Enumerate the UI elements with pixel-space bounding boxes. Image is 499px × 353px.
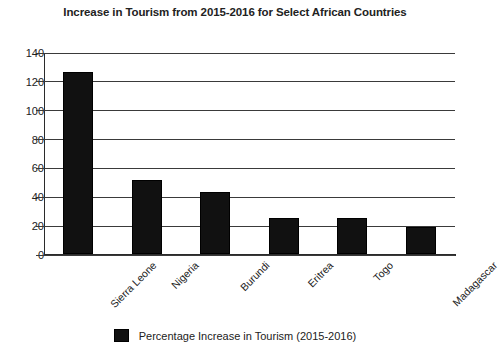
legend-swatch-icon <box>114 329 129 342</box>
bar <box>269 218 299 254</box>
y-tick-mark <box>36 226 44 227</box>
x-tick-label: Togo <box>371 259 396 284</box>
bar <box>406 227 436 254</box>
legend-label: Percentage Increase in Tourism (2015-201… <box>139 330 356 342</box>
gridline <box>44 139 455 140</box>
x-tick-label: Madagascar <box>450 259 499 308</box>
x-tick-label: Sierra Leone <box>108 259 159 310</box>
gridline <box>44 226 455 227</box>
bar <box>132 180 162 254</box>
gridline <box>44 53 455 54</box>
gridline <box>44 81 455 82</box>
gridline <box>44 197 455 198</box>
y-tick-mark <box>36 197 44 198</box>
bar <box>200 192 230 254</box>
gridline <box>44 110 455 111</box>
y-tick-mark <box>36 81 44 82</box>
chart-legend: Percentage Increase in Tourism (2015-201… <box>0 329 470 342</box>
y-tick-mark <box>36 168 44 169</box>
plot-area <box>44 53 455 255</box>
x-tick-label: Burundi <box>238 259 272 293</box>
bar <box>63 72 93 254</box>
bar <box>337 218 367 254</box>
y-tick-mark <box>36 139 44 140</box>
y-axis: 020406080100120140 <box>0 53 44 255</box>
x-axis-tick-labels: Sierra LeoneNigeriaBurundiEritreaTogoMad… <box>0 255 470 315</box>
gridline <box>44 168 455 169</box>
y-tick-mark <box>36 53 44 54</box>
x-tick-label: Nigeria <box>168 259 200 291</box>
x-tick-label: Eritrea <box>305 259 335 289</box>
y-tick-mark <box>36 110 44 111</box>
chart-title: Increase in Tourism from 2015-2016 for S… <box>0 6 470 18</box>
